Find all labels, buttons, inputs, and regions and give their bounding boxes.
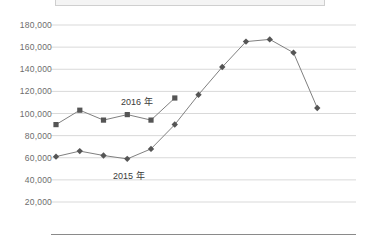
y-tick-label: 160,000 — [0, 43, 52, 52]
data-point-marker — [314, 105, 320, 111]
data-point-marker — [267, 36, 273, 42]
data-point-marker — [124, 156, 130, 162]
y-tick-label: 80,000 — [0, 132, 52, 141]
data-point-marker — [148, 118, 153, 123]
data-point-marker — [172, 95, 177, 100]
y-tick-label: 120,000 — [0, 87, 52, 96]
y-tick-label: 60,000 — [0, 154, 52, 163]
data-point-marker — [125, 112, 130, 117]
data-point-marker — [53, 153, 59, 159]
series-lines — [56, 39, 317, 158]
data-point-marker — [77, 108, 82, 113]
data-point-marker — [53, 122, 58, 127]
series-markers — [53, 36, 321, 162]
series-line-1 — [56, 98, 175, 125]
series-line-0 — [56, 39, 317, 158]
y-tick-label: 180,000 — [0, 21, 52, 30]
data-point-marker — [290, 49, 296, 55]
data-point-marker — [77, 148, 83, 154]
data-point-marker — [101, 118, 106, 123]
line-chart-plot — [0, 0, 367, 239]
series-label-2015: 2015 年 — [113, 172, 145, 181]
y-tick-label: 20,000 — [0, 198, 52, 207]
y-tick-label: 100,000 — [0, 110, 52, 119]
y-tick-label: 140,000 — [0, 65, 52, 74]
gridlines — [51, 25, 356, 202]
y-tick-label: 40,000 — [0, 176, 52, 185]
y-axis-tick-labels: 180,000160,000140,000120,000100,00080,00… — [0, 0, 52, 239]
chart-page: 180,000160,000140,000120,000100,00080,00… — [0, 0, 367, 239]
x-axis-line — [51, 234, 356, 235]
series-label-2016: 2016 年 — [121, 98, 153, 107]
